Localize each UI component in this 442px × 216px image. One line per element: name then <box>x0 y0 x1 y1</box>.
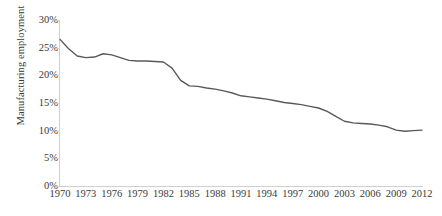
y-axis-tick-label: 15% <box>22 98 58 109</box>
x-axis-tick-label: 1985 <box>179 189 200 200</box>
plot-area <box>60 20 422 186</box>
y-axis-tick-label: 20% <box>22 70 58 81</box>
manufacturing-employment-line-chart: Manufacturing employment 30%25%20%15%10%… <box>0 0 442 216</box>
y-axis-tick-label: 10% <box>22 125 58 136</box>
y-axis-tick-mark <box>56 186 59 187</box>
x-axis-tick-label: 2006 <box>360 189 381 200</box>
x-axis-tick-label: 1973 <box>75 189 96 200</box>
x-axis-tick-label: 2012 <box>412 189 433 200</box>
y-axis-tick-mark <box>56 131 59 132</box>
x-axis-tick-label: 1979 <box>127 189 148 200</box>
x-axis-line <box>59 186 423 187</box>
x-axis-tick-label: 1997 <box>282 189 303 200</box>
x-axis-tick-label: 1982 <box>153 189 174 200</box>
x-axis-tick-label: 1970 <box>50 189 71 200</box>
series-line-manufacturing-employment <box>60 39 422 131</box>
x-axis-tick-label: 2003 <box>334 189 355 200</box>
y-axis-tick-mark <box>56 158 59 159</box>
y-axis-tick-labels: 30%25%20%15%10%5%0% <box>22 0 58 216</box>
x-axis-tick-label: 1976 <box>101 189 122 200</box>
line-series-svg <box>60 20 422 186</box>
y-axis-tick-label: 30% <box>22 15 58 26</box>
y-axis-tick-mark <box>56 48 59 49</box>
x-axis-tick-label: 1994 <box>256 189 277 200</box>
x-axis-tick-label: 1988 <box>205 189 226 200</box>
x-axis-tick-labels: 1970197319761979198219851988199119941997… <box>0 189 442 209</box>
y-axis-tick-label: 5% <box>22 153 58 164</box>
x-axis-tick-label: 2009 <box>386 189 407 200</box>
y-axis-tick-mark <box>56 103 59 104</box>
x-axis-tick-label: 2000 <box>308 189 329 200</box>
y-axis-tick-mark <box>56 20 59 21</box>
y-axis-tick-label: 25% <box>22 42 58 53</box>
x-axis-tick-label: 1991 <box>231 189 252 200</box>
y-axis-tick-mark <box>56 75 59 76</box>
